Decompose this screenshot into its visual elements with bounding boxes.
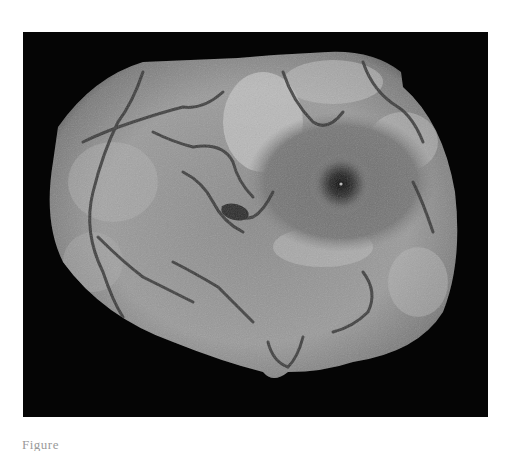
- fundus-image: [23, 32, 488, 417]
- retina-mosaic: [23, 32, 488, 417]
- figure-caption: Figure: [22, 437, 492, 451]
